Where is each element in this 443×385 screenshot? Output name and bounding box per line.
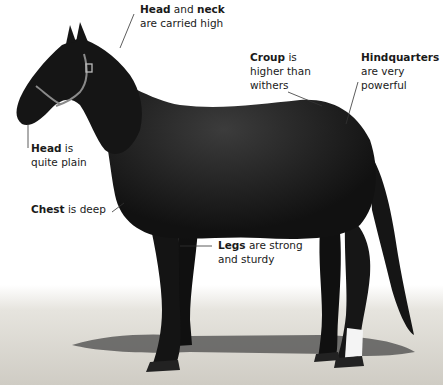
label-hindquarters: Hindquarters are very powerful [361,50,439,92]
label-head-neck-term2: neck [197,3,225,15]
label-head-neck: Head and neck are carried high [140,2,225,30]
label-head-connector: is [62,142,74,154]
label-croup: Croup is higher than withers [250,50,311,92]
horse-diagram: Head and neck are carried high Croup is … [0,0,443,385]
label-hindquarters-desc1: are very [361,64,439,78]
label-head-neck-desc: are carried high [140,16,225,30]
label-croup-desc2: withers [250,78,311,92]
label-hindquarters-desc2: powerful [361,78,439,92]
label-head-term: Head [31,142,62,154]
label-legs-desc: and sturdy [218,252,303,266]
label-hindquarters-term: Hindquarters [361,51,439,63]
leader-head-neck [120,14,134,48]
label-legs-connector: are strong [246,239,303,251]
label-head-desc: quite plain [31,155,87,169]
label-head: Head is quite plain [31,141,87,169]
label-head-neck-term1: Head [140,3,171,15]
label-legs-term: Legs [218,239,246,251]
label-chest-term: Chest [31,203,65,215]
label-head-neck-connector: and [171,3,197,15]
label-croup-term: Croup [250,51,285,63]
white-sock [345,328,363,358]
label-croup-desc1: higher than [250,64,311,78]
gravel-ground [0,285,443,385]
hind-leg-far [318,230,341,358]
horse-body [100,70,376,239]
label-legs: Legs are strong and sturdy [218,238,303,266]
label-croup-connector: is [285,51,297,63]
label-chest: Chest is deep [31,202,106,216]
horse-neck-head [17,38,142,154]
horse-ear-left [66,25,76,44]
horse-ear-right [76,22,88,42]
label-chest-desc: is deep [65,203,106,215]
